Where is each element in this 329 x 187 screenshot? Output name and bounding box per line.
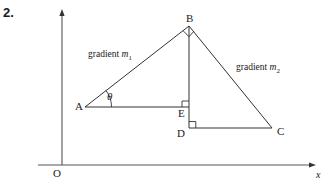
y-axis-arrowhead <box>59 9 64 16</box>
segment-bc <box>189 26 272 128</box>
gradient-subscript-left: 1 <box>128 54 132 62</box>
gradient-subscript-right: 2 <box>276 67 280 75</box>
x-axis-arrowhead <box>309 162 316 167</box>
vertex-label-e: E <box>178 108 185 119</box>
vertex-label-a: A <box>75 101 83 112</box>
gradient-word-right: gradient <box>236 62 267 72</box>
figure-canvas <box>0 0 329 187</box>
gradient-word-left: gradient <box>88 49 119 59</box>
segment-ab <box>85 26 189 107</box>
gradient-label-m1: gradient m1 <box>88 50 132 62</box>
angle-label-theta: θ <box>107 91 112 102</box>
origin-label: O <box>53 168 61 179</box>
vertex-label-c: C <box>277 126 284 137</box>
x-axis-label: x <box>316 170 320 180</box>
right-angle-mark-d <box>189 122 196 129</box>
vertex-label-d: D <box>177 128 185 139</box>
geometry-figure: 2. A B C D E O x θ gradient m1 <box>0 0 329 187</box>
gradient-label-m2: gradient m2 <box>236 63 280 75</box>
vertex-label-b: B <box>186 13 193 24</box>
